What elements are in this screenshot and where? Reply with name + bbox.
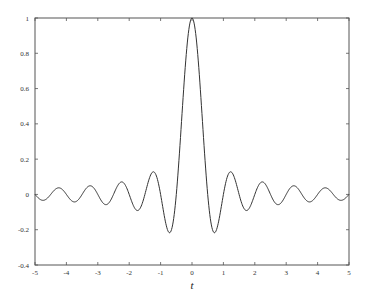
x-tick-label: -3 — [95, 269, 101, 277]
x-tick-label: -5 — [32, 269, 38, 277]
x-tick-label: 1 — [222, 269, 226, 277]
x-tick-label: 0 — [190, 269, 194, 277]
x-tick-label: -2 — [126, 269, 132, 277]
y-tick-label: 0.6 — [20, 85, 29, 93]
y-tick-label: 0.8 — [20, 50, 29, 58]
x-tick-label: -1 — [158, 269, 164, 277]
x-tick-label: -4 — [63, 269, 69, 277]
data-line — [35, 18, 349, 233]
x-axis-ticks: -5-4-3-2-1012345 — [32, 18, 351, 277]
x-tick-label: 2 — [253, 269, 257, 277]
y-tick-label: -0.4 — [18, 262, 30, 270]
x-axis-label: t — [190, 279, 194, 291]
y-tick-label: 0 — [26, 191, 30, 199]
y-axis-ticks: -0.4-0.200.20.40.60.81 — [18, 15, 349, 270]
y-tick-label: 0.2 — [20, 156, 29, 164]
plot-area — [35, 18, 349, 265]
y-tick-label: -0.2 — [18, 226, 30, 234]
y-tick-label: 1 — [26, 15, 30, 23]
line-chart: -5-4-3-2-1012345 -0.4-0.200.20.40.60.81 … — [0, 0, 368, 304]
x-tick-label: 4 — [316, 269, 320, 277]
y-tick-label: 0.4 — [20, 120, 29, 128]
x-tick-label: 5 — [347, 269, 351, 277]
x-tick-label: 3 — [284, 269, 288, 277]
